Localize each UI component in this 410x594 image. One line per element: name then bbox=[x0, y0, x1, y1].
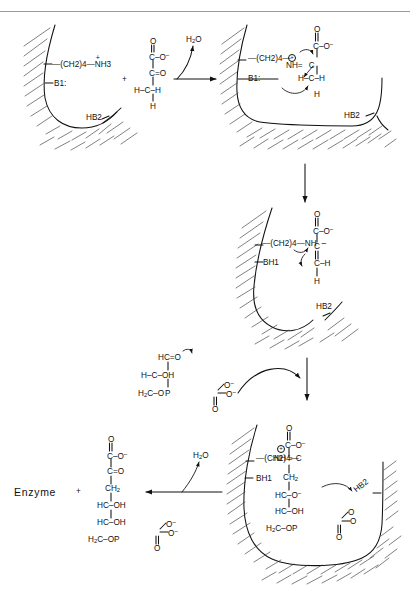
panel4-base1: BH1 bbox=[256, 474, 272, 483]
product-carboxylate: C–O− bbox=[107, 451, 128, 461]
panel2-lysine-chain: —(CH2)4— bbox=[248, 54, 291, 63]
panel4-imine-charge: + bbox=[277, 445, 285, 453]
g3p-aldehyde: HC=O bbox=[158, 353, 181, 362]
panel1-lysine-chain: —(CH2)4—+NH3 bbox=[52, 60, 111, 69]
plus-sign-1: + bbox=[122, 75, 127, 84]
product-ch2: CH2 bbox=[105, 484, 120, 493]
panel4-p-double-oxygen: O bbox=[336, 533, 342, 542]
panel4-p-oxygen-2: O bbox=[350, 517, 356, 526]
water-label-2: H2O bbox=[193, 451, 209, 460]
pyruvate-methylene: H–C–H bbox=[134, 86, 161, 95]
pyruvate-carboxylate: C–O− bbox=[149, 52, 170, 62]
pyruvate-keto: C=O bbox=[149, 69, 166, 78]
panel2-imine-label: NH=C bbox=[286, 61, 315, 70]
water-label-1: H2O bbox=[186, 35, 202, 44]
g3p-p-double-oxygen: O bbox=[212, 405, 218, 414]
panel2-base2: HB2 bbox=[344, 111, 360, 120]
product-hc-oh-2: HC–OH bbox=[97, 518, 126, 527]
panel2-base1: B1: bbox=[248, 74, 260, 83]
panel3-base2: HB2 bbox=[316, 302, 332, 311]
panel4-p-oxygen-1: O bbox=[348, 508, 354, 517]
product-hc-oh-1: HC–OH bbox=[97, 501, 126, 510]
panel1-base1: B1: bbox=[54, 79, 66, 88]
product-p-double-oxygen: O bbox=[154, 544, 160, 553]
g3p-p-oxygen-2: O− bbox=[226, 389, 236, 399]
panel2-carboxylate: C–O− bbox=[313, 41, 334, 51]
enzyme-label: Enzyme bbox=[14, 486, 56, 498]
panel1-amine-charge: + bbox=[96, 54, 100, 61]
panel1-amine: NH3 bbox=[95, 60, 111, 69]
figure-page: —(CH2)4—+NH3 B1: HB2 + O C–O− C=O H–C–H … bbox=[0, 0, 410, 594]
diagram-linework bbox=[0, 0, 410, 594]
panel2-methyl-h: H bbox=[314, 90, 320, 99]
panel3-beta-h: H bbox=[314, 277, 320, 286]
panel2-methylene: H–C–H bbox=[298, 74, 325, 83]
product-keto: C=O bbox=[107, 467, 124, 476]
g3p-hydroxyl-carbon: H–C–OH bbox=[141, 371, 174, 380]
panel4-hc-alkoxide: HC–O− bbox=[275, 490, 302, 500]
pyruvate-carbonyl-o: O bbox=[150, 37, 156, 46]
panel3-carbonyl-o: O bbox=[314, 210, 320, 219]
g3p-phosphate-carbon: H2C–OP bbox=[138, 389, 171, 398]
plus-sign-2: + bbox=[76, 487, 81, 496]
product-p-oxygen-2: O− bbox=[168, 528, 178, 538]
product-carbonyl-o: O bbox=[108, 435, 114, 444]
panel3-base1: BH1 bbox=[263, 258, 279, 267]
pyruvate-methyl-h: H bbox=[150, 102, 156, 111]
panel3-carboxylate: C–O− bbox=[313, 226, 334, 236]
panel4-carboxylate: C–O− bbox=[285, 440, 306, 450]
panel4-hc-oh: HC–OH bbox=[275, 507, 304, 516]
panel3-beta-carbon: C–H bbox=[314, 259, 330, 268]
panel4-iminium-charge-wrap: + bbox=[277, 445, 285, 454]
product-h2c-op: H2C–OP bbox=[88, 535, 120, 544]
panel4-h2c-op: H2C–OP bbox=[266, 524, 298, 533]
panel4-carbonyl-o: O bbox=[286, 424, 292, 433]
panel1-base2: HB2 bbox=[86, 113, 102, 122]
panel3-alpha-carbon: C bbox=[314, 242, 320, 251]
panel4-imine-label: NH=C bbox=[274, 454, 302, 463]
panel4-ch2: CH2 bbox=[283, 473, 298, 482]
panel2-carbonyl-o: O bbox=[314, 25, 320, 34]
